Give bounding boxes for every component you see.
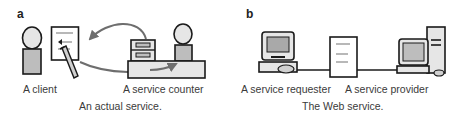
service-requester-label: A service requester — [241, 83, 331, 95]
file-cabinet-icon — [131, 40, 155, 61]
diagram-canvas — [0, 0, 461, 121]
curved-arrow-left-icon — [90, 24, 146, 39]
desktop-computer-requester-icon — [259, 32, 297, 73]
service-provider-label: A service provider — [345, 83, 428, 95]
service-counter-label: A service counter — [123, 83, 204, 95]
panel-b-caption: The Web service. — [302, 100, 384, 112]
tower-computer-provider-icon — [397, 27, 445, 76]
person-clerk-icon — [174, 24, 192, 61]
panel-a-caption: An actual service. — [79, 100, 162, 112]
counter-desk-icon — [128, 61, 205, 78]
message-document-icon — [330, 37, 357, 77]
person-client-icon — [23, 27, 42, 74]
client-label: A client — [23, 83, 57, 95]
